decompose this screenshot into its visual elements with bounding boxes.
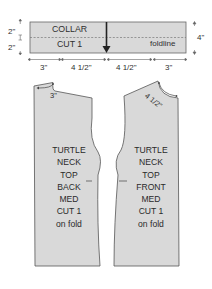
collar-height-markers-left: [19, 19, 23, 55]
collar-cut-label: CUT 1: [57, 40, 82, 49]
collar-width-dimensions: [28, 58, 187, 60]
back-line-3: TOP: [44, 169, 94, 181]
collar-width-3: 4 1/2": [116, 64, 137, 72]
collar-height-markers-right: [193, 22, 196, 55]
front-neck-dot-bottom: [176, 95, 178, 97]
front-line-6: CUT 1: [126, 205, 176, 217]
back-line-5: MED: [44, 193, 94, 205]
front-line-1: TURTLE: [126, 144, 176, 156]
collar-height-top: 2": [8, 28, 15, 36]
front-neck-dot-top: [158, 82, 160, 84]
foldline-label: foldline: [150, 40, 175, 48]
front-line-7: on fold: [126, 218, 176, 230]
back-line-7: on fold: [44, 218, 94, 230]
front-line-4: FRONT: [126, 181, 176, 193]
collar-height-total: 4": [197, 34, 204, 42]
back-neck-dot: [52, 83, 54, 85]
collar-height-bottom: 2": [8, 44, 15, 52]
collar-width-1: 3": [40, 64, 47, 72]
front-line-2: NECK: [126, 156, 176, 168]
front-line-5: MED: [126, 193, 176, 205]
back-line-1: TURTLE: [44, 144, 94, 156]
back-neck-measure: 3": [50, 92, 57, 100]
collar-width-2: 4 1/2": [71, 64, 92, 72]
back-line-6: CUT 1: [44, 205, 94, 217]
front-piece-label: TURTLE NECK TOP FRONT MED CUT 1 on fold: [126, 144, 176, 230]
front-line-3: TOP: [126, 169, 176, 181]
back-line-4: BACK: [44, 181, 94, 193]
collar-title: COLLAR: [52, 25, 87, 34]
pattern-diagram: [0, 0, 212, 289]
collar-width-4: 3": [165, 64, 172, 72]
back-piece-label: TURTLE NECK TOP BACK MED CUT 1 on fold: [44, 144, 94, 230]
back-line-2: NECK: [44, 156, 94, 168]
